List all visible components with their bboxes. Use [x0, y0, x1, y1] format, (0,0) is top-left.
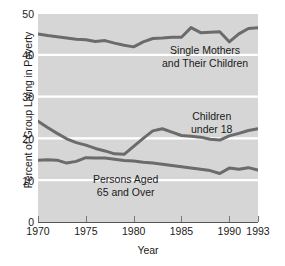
- x-tick-label-1985: 1985: [159, 226, 203, 237]
- x-tick-mark: [181, 216, 182, 222]
- series-line: [38, 158, 258, 174]
- x-tick-mark: [134, 216, 135, 222]
- y-tick-label-30: 30: [4, 92, 34, 103]
- plot-area: Single Mothers and Their Children Childr…: [38, 13, 258, 222]
- x-tick-label-1993: 1993: [236, 226, 280, 237]
- y-tick-label-40: 40: [4, 50, 34, 61]
- annotation-persons-65-and-over: Persons Aged 65 and Over: [93, 173, 158, 198]
- x-tick-mark: [258, 216, 259, 222]
- annotation-elderly-line1: Persons Aged: [93, 173, 158, 186]
- annotation-children-under-18: Children under 18: [191, 110, 232, 135]
- y-tick-label-50: 50: [4, 9, 34, 20]
- x-tick-label-1975: 1975: [64, 226, 108, 237]
- y-tick-label-10: 10: [4, 176, 34, 187]
- poverty-line-chart: Percent of Group Living in Poverty 50 40…: [0, 0, 285, 266]
- x-tick-label-1980: 1980: [112, 226, 156, 237]
- x-axis-title: Year: [38, 244, 258, 256]
- annotation-children-line2: under 18: [191, 123, 232, 136]
- x-tick-mark: [229, 216, 230, 222]
- x-tick-label-1970: 1970: [16, 226, 60, 237]
- x-tick-mark: [86, 216, 87, 222]
- annotation-single-mothers-line2: and Their Children: [162, 57, 248, 70]
- x-axis-line: [38, 222, 258, 223]
- annotation-elderly-line2: 65 and Over: [93, 186, 158, 199]
- annotation-single-mothers: Single Mothers and Their Children: [162, 44, 248, 69]
- x-tick-mark: [38, 216, 39, 222]
- annotation-single-mothers-line1: Single Mothers: [162, 44, 248, 57]
- y-tick-label-20: 20: [4, 134, 34, 145]
- annotation-children-line1: Children: [191, 110, 232, 123]
